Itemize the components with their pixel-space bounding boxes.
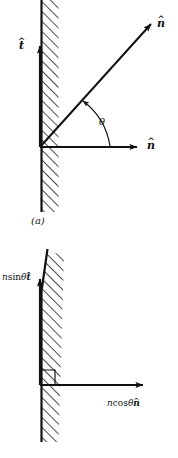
sin-function: sin (8, 272, 21, 282)
hat-accent-icon: ^ (134, 397, 140, 404)
label-theta-angle: θ (99, 117, 105, 127)
hat-accent-icon: ^ (26, 271, 32, 278)
hat-accent-icon: ^ (157, 15, 164, 24)
t-hat-glyph: t^ (19, 40, 24, 51)
label-tangential-component: nsinθt^ (2, 273, 31, 282)
hatched-wall-a (42, 0, 59, 212)
hatched-wall-b (42, 249, 65, 442)
hat-accent-icon: ^ (18, 37, 25, 46)
label-n-hat-oblique-vector: n^ (157, 18, 165, 29)
n-hat-oblique-glyph: n^ (157, 18, 165, 29)
label-n-hat-normal-vector: n^ (147, 140, 155, 151)
panel-b-group (40, 249, 143, 442)
figure-canvas (0, 0, 178, 458)
label-normal-component: ncosθn^ (107, 399, 140, 408)
caption-panel-a: (a) (31, 216, 45, 226)
hat-accent-icon: ^ (147, 137, 154, 146)
figure-root: n^ t^ n^ θ (a) nsinθt^ ncosθn^ (0, 0, 178, 458)
cos-function: cos (113, 398, 128, 408)
n-hat-component-glyph: n^ (133, 399, 140, 408)
panel-a-group (40, 0, 151, 212)
n-hat-horizontal-glyph: n^ (147, 140, 155, 151)
theta-arc-a (83, 101, 110, 146)
label-t-hat-tangent-vector: t^ (19, 40, 24, 51)
t-hat-component-glyph: t^ (27, 273, 31, 282)
